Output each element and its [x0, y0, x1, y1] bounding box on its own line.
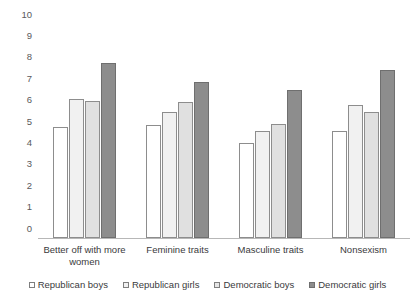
- bar: [146, 125, 161, 238]
- y-axis-tick-label: 6: [27, 95, 32, 105]
- bar: [85, 101, 100, 238]
- legend-swatch-icon: [29, 282, 35, 288]
- y-axis-tick-label: 7: [27, 74, 32, 84]
- bar: [162, 112, 177, 238]
- y-axis-tick-label: 8: [27, 53, 32, 63]
- bar: [239, 143, 254, 238]
- bar: [364, 112, 379, 238]
- bar: [332, 131, 347, 238]
- bar-group: [317, 24, 410, 238]
- y-axis-tick-label: 9: [27, 31, 32, 41]
- bar: [101, 63, 116, 238]
- category-label: Better off with more women: [38, 244, 131, 267]
- legend-item[interactable]: Democratic boys: [214, 280, 294, 290]
- category-label: Masculine traits: [224, 244, 317, 256]
- bar-group: [38, 24, 131, 238]
- bar: [348, 105, 363, 238]
- x-axis-line: [38, 238, 410, 239]
- legend-label: Republican girls: [132, 280, 200, 290]
- legend-item[interactable]: Democratic girls: [309, 280, 386, 290]
- bar: [287, 90, 302, 238]
- plot-area: 012345678910: [38, 24, 410, 238]
- bar: [271, 124, 286, 238]
- legend-label: Republican boys: [38, 280, 108, 290]
- bar-chart: 012345678910 Better off with more womenF…: [0, 0, 415, 304]
- legend-swatch-icon: [214, 282, 220, 288]
- bar-group: [131, 24, 224, 238]
- legend-swatch-icon: [309, 282, 315, 288]
- bar: [255, 131, 270, 238]
- legend-item[interactable]: Republican girls: [123, 280, 200, 290]
- legend-label: Democratic boys: [223, 280, 294, 290]
- y-axis-tick-label: 2: [27, 181, 32, 191]
- legend-swatch-icon: [123, 282, 129, 288]
- bar: [69, 99, 84, 238]
- bar: [178, 102, 193, 238]
- chart-legend: Republican boysRepublican girlsDemocrati…: [0, 280, 415, 290]
- category-label: Nonsexism: [317, 244, 410, 256]
- bar: [53, 127, 68, 238]
- y-axis-tick-label: 3: [27, 160, 32, 170]
- y-axis-tick-label: 10: [21, 10, 32, 20]
- bar: [380, 70, 395, 238]
- y-axis-tick-label: 1: [27, 202, 32, 212]
- bar-group: [224, 24, 317, 238]
- y-axis-tick-label: 5: [27, 117, 32, 127]
- category-label: Feminine traits: [131, 244, 224, 256]
- y-axis-tick-label: 4: [27, 138, 32, 148]
- legend-label: Democratic girls: [318, 280, 386, 290]
- legend-item[interactable]: Republican boys: [29, 280, 108, 290]
- bar: [194, 82, 209, 238]
- y-axis-tick-label: 0: [27, 224, 32, 234]
